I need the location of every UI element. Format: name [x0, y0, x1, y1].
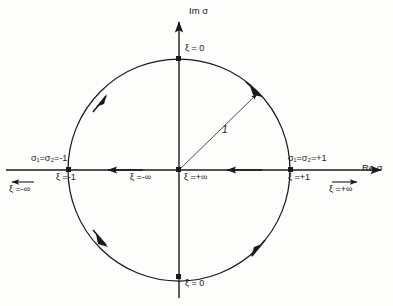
point-top — [176, 56, 181, 61]
label-xi-plus-infinity-outer: ξ =+∞ — [329, 185, 352, 194]
real-axis-label: Re σ — [362, 163, 383, 173]
circle-arrow-lower-right — [251, 240, 265, 257]
label-xi-top: ξ = 0 — [185, 44, 204, 53]
circle-arrow-lower-left — [93, 230, 108, 247]
circle-arrow-upper-right — [246, 82, 263, 97]
label-xi-bottom: ξ = 0 — [185, 279, 204, 288]
label-xi-minus-infinity-outer: ξ =-∞ — [9, 185, 30, 194]
label-xi-plus-one: ξ =+1 — [288, 173, 310, 182]
radius-line — [179, 94, 257, 170]
label-sigma-left: σ₁=σ₂=-1 — [31, 154, 67, 163]
radius-label: 1 — [222, 125, 228, 135]
imaginary-axis-label: Im σ — [189, 6, 208, 16]
label-xi-plus-infinity-origin: ξ =+∞ — [184, 173, 207, 182]
label-sigma-right: σ₁=σ₂=+1 — [288, 154, 326, 163]
label-xi-minus-one: ξ =-1 — [56, 173, 76, 182]
complex-plane-figure: Im σ Re σ ξ = 0 ξ = 0 σ₁=σ₂=-1 ξ =-1 ξ =… — [0, 0, 393, 306]
point-bottom — [176, 274, 181, 279]
point-origin — [176, 167, 181, 172]
label-xi-minus-infinity-origin: ξ =-∞ — [130, 173, 151, 182]
